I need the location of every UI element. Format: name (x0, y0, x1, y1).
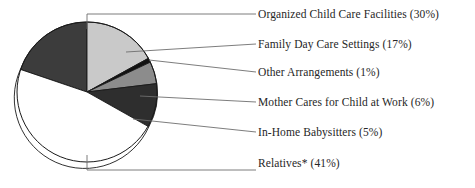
pie-label-organized-child-care: Organized Child Care Facilities (30%) (258, 8, 439, 21)
pie-label-mother-cares-at-work: Mother Cares for Child at Work (6%) (258, 96, 434, 109)
pie-label-family-day-care: Family Day Care Settings (17%) (258, 38, 412, 51)
pie-label-in-home-babysitters: In-Home Babysitters (5%) (258, 126, 382, 139)
leader-line-in-home-babysitters (133, 119, 256, 132)
pie-label-other-arrangements: Other Arrangements (1%) (258, 66, 380, 79)
leader-line-other-arrangements (149, 60, 256, 72)
leader-line-family-day-care (126, 44, 256, 52)
pie-chart-figure (0, 0, 475, 188)
pie-label-relatives: Relatives* (41%) (258, 157, 340, 170)
